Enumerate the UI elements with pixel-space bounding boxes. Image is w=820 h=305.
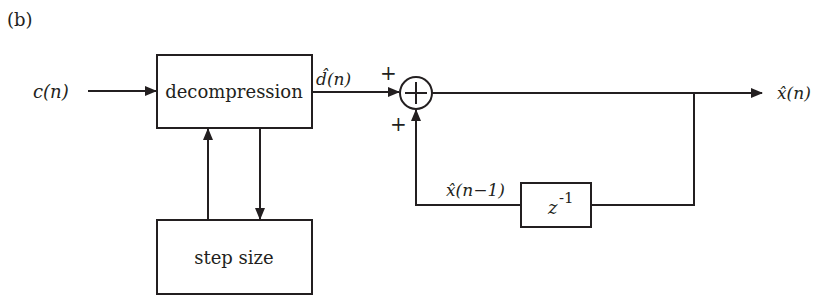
summer-node: [400, 77, 432, 109]
delay-base: z: [547, 197, 558, 218]
decompressed-diff-label: d̂(n): [316, 68, 351, 89]
input-signal-label: c(n): [33, 81, 69, 102]
decompression-label: decompression: [165, 81, 303, 102]
delay-exponent: -1: [559, 189, 574, 207]
output-signal-label: x̂(n): [777, 83, 811, 103]
summer-sign-top: +: [380, 61, 397, 85]
feedback-branch: [591, 93, 694, 205]
step-size-label: step size: [194, 247, 274, 268]
summer-sign-bottom: +: [390, 112, 407, 136]
block-diagram: (b) c(n) decompression d̂(n) + + x̂(n) z…: [0, 0, 820, 305]
delayed-output-label: x̂(n−1): [446, 180, 505, 200]
panel-label: (b): [7, 9, 33, 30]
